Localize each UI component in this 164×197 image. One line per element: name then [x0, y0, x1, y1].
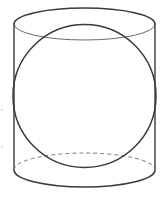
- inscribed-sphere: [13, 25, 156, 168]
- stray-mark: [1, 109, 3, 111]
- cylinder-bottom-front-arc: [14, 170, 155, 187]
- cylinder-top-back-arc: [14, 8, 155, 24]
- sphere-in-cylinder-diagram: [0, 0, 164, 197]
- stray-mark: [1, 146, 3, 148]
- cylinder-top-front-arc: [14, 24, 155, 40]
